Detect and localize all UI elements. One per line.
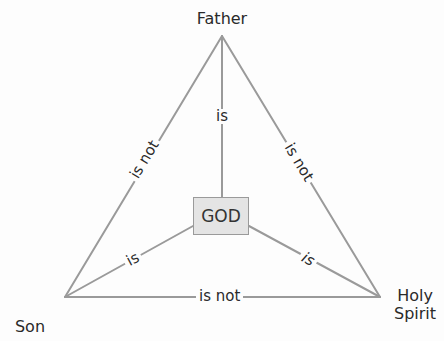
node-god: GOD [193, 197, 249, 235]
node-holy-spirit-line1: Holy [392, 287, 438, 305]
node-holy-spirit: Holy Spirit [392, 287, 438, 324]
edge-label-son-spirit: is not [196, 289, 243, 304]
node-god-label: GOD [201, 206, 241, 226]
node-holy-spirit-line2: Spirit [392, 305, 438, 323]
edge-label-father-god: is [213, 109, 231, 124]
node-son: Son [10, 318, 50, 336]
node-father: Father [192, 10, 252, 28]
